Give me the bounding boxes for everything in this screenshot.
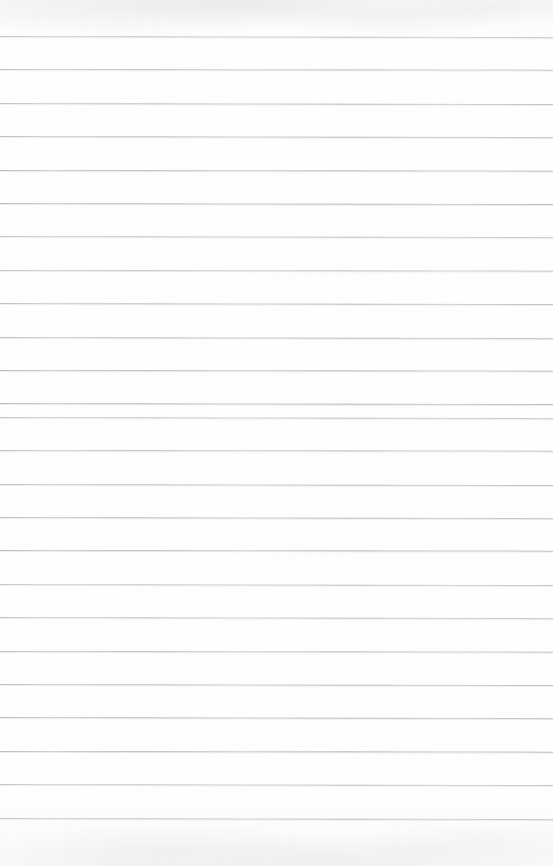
paper-sheet — [0, 0, 553, 866]
document-page — [0, 0, 553, 866]
